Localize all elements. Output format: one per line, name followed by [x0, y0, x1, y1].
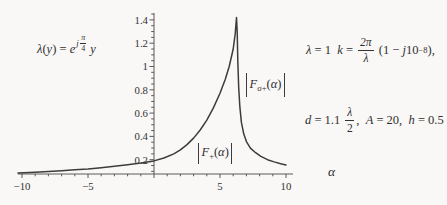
y-tick-label: 1	[143, 60, 148, 72]
parameters-line1: λ = 1 k = 2πλ (1 − j10−8),	[306, 37, 435, 64]
figure: −10−55100.20.40.60.811.21.4 λ(y) = ejπ4 …	[0, 0, 447, 205]
right-norm-bar	[231, 143, 232, 164]
x-tick-label: −5	[82, 180, 94, 192]
curve-label-lower-text: F+(α)	[202, 146, 229, 161]
right-norm-bar	[284, 73, 285, 97]
x-tick-label: −10	[14, 180, 31, 192]
y-tick-label: 0.4	[135, 130, 149, 142]
y-tick-label: 0.6	[135, 107, 149, 119]
parameters-line2: d = 1.1 λ2, A = 20, h = 0.5	[305, 107, 444, 134]
left-norm-bar	[246, 73, 247, 97]
lambda-definition-formula: λ(y) = ejπ4 y	[37, 39, 96, 59]
curve-label-F-plus: F+(α)	[198, 143, 232, 164]
y-tick-label: 1.2	[135, 37, 149, 49]
curve-label-upper-text: Fσ+(α)	[250, 78, 282, 93]
y-tick-label: 0.8	[135, 84, 149, 96]
x-tick-label: 5	[217, 180, 222, 192]
x-tick-label: 10	[281, 180, 292, 192]
curve-label-F-sigma-plus: Fσ+(α)	[246, 73, 285, 97]
x-axis-label: α	[328, 164, 335, 180]
y-tick-label: 1.4	[135, 14, 149, 26]
plot-canvas: −10−55100.20.40.60.811.21.4	[0, 0, 447, 205]
left-norm-bar	[198, 143, 199, 164]
